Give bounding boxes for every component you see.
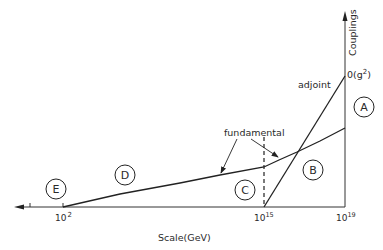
svg-text:B: B (309, 164, 317, 177)
fundamental-pointer-left (221, 139, 237, 173)
x-tick-label-10e15: 1015 (254, 211, 274, 223)
fundamental-curve (63, 128, 345, 207)
coupling-scale-diagram: fundamental adjoint 0(g2) Couplings 102 … (0, 0, 383, 250)
region-marker-e: E (46, 179, 66, 199)
svg-text:C: C (241, 184, 249, 197)
svg-text:E: E (53, 183, 60, 196)
region-marker-b: B (303, 160, 323, 180)
region-marker-c: C (235, 180, 255, 200)
region-marker-a: A (354, 97, 374, 117)
x-tick-label-10e19: 1019 (336, 211, 356, 223)
fundamental-label: fundamental (224, 127, 285, 138)
svg-text:D: D (121, 169, 129, 182)
adjoint-label: adjoint (298, 79, 331, 90)
x-axis-label: Scale(GeV) (158, 232, 211, 243)
x-axis-arrow-icon (14, 205, 24, 210)
adjoint-curve (264, 76, 345, 207)
region-marker-d: D (115, 165, 135, 185)
coupling-value-label: 0(g2) (347, 68, 371, 80)
x-tick-label-10e2: 102 (55, 211, 72, 223)
svg-text:A: A (360, 101, 368, 114)
y-axis-label: Couplings (347, 9, 358, 56)
